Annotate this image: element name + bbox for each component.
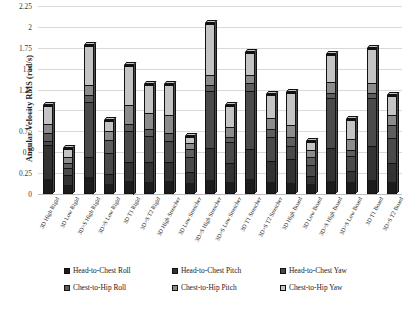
chart-legend: Head-to-Chest RollHead-to-Chest PitchHea… (64, 262, 388, 296)
bar-segment (85, 95, 93, 102)
bar-3d-body (124, 65, 136, 195)
plot-area (38, 6, 402, 194)
bar-column[interactable] (387, 95, 399, 194)
bar-stack (245, 52, 255, 194)
bar-segment (206, 148, 214, 179)
legend-swatch-icon (172, 285, 178, 291)
bar-3d-body (387, 95, 399, 194)
x-tick-label: 3D T1 Rigid (122, 196, 141, 225)
bar-segment (287, 93, 295, 125)
bar-segment (347, 171, 355, 182)
bar-column[interactable] (124, 65, 136, 195)
bar-stack (185, 136, 195, 194)
bar-column[interactable] (104, 120, 116, 194)
bar-segment (105, 153, 113, 173)
x-axis-tick-labels: 3D High Rigid3D Low Rigid3D>S High Rigid… (38, 196, 402, 258)
bar-stack (346, 119, 356, 194)
bar-segment (165, 141, 173, 162)
bar-3d-body (225, 105, 237, 194)
bar-3d-body (306, 141, 318, 194)
bar-segment (145, 85, 153, 113)
bar-top-face (367, 45, 380, 48)
bar-column[interactable] (205, 23, 217, 194)
bar-segment (368, 146, 376, 180)
bar-column[interactable] (164, 84, 176, 194)
bar-segment (287, 159, 295, 184)
y-tick-label: 0.25 (19, 169, 32, 178)
bar-segment (85, 46, 93, 85)
bar-segment (327, 98, 335, 147)
y-tick-label: 1.25 (19, 85, 32, 94)
legend-label: Head-to-Chest Yaw (289, 266, 347, 275)
bar-stack (367, 48, 377, 194)
bar-segment (44, 124, 52, 132)
bar-segment (307, 165, 315, 176)
legend-item[interactable]: Chest-to-Hip Roll (64, 283, 172, 292)
bar-segment (388, 138, 396, 163)
legend-swatch-icon (64, 285, 70, 291)
bar-column[interactable] (84, 45, 96, 194)
legend-label: Chest-to-Hip Yaw (289, 283, 342, 292)
legend-item[interactable]: Head-to-Chest Pitch (172, 266, 280, 275)
legend-swatch-icon (172, 268, 178, 274)
legend-item[interactable]: Head-to-Chest Yaw (280, 266, 388, 275)
bar-segment (64, 149, 72, 157)
bar-top-face (387, 92, 400, 95)
y-tick-label: 0 (28, 190, 32, 199)
bar-column[interactable] (63, 148, 75, 194)
bar-segment (165, 133, 173, 141)
bar-segment (388, 96, 396, 116)
bar-segment (105, 121, 113, 132)
bar-segment (125, 162, 133, 181)
legend-item[interactable]: Chest-to-Hip Yaw (280, 283, 388, 292)
bar-segment (368, 98, 376, 146)
bar-top-face (205, 20, 218, 23)
bar-column[interactable] (367, 48, 379, 194)
bar-column[interactable] (225, 105, 237, 194)
bar-segment (226, 106, 234, 127)
bar-series-group (38, 6, 402, 194)
bar-3d-body (84, 45, 96, 194)
legend-item[interactable]: Chest-to-Hip Pitch (172, 283, 280, 292)
bar-segment (267, 161, 275, 182)
bar-column[interactable] (43, 105, 55, 194)
bar-segment (64, 175, 72, 185)
bar-segment (64, 185, 72, 193)
bar-segment (246, 53, 254, 75)
x-tick-label: 3D High Rigid (39, 196, 61, 230)
bar-segment (307, 142, 315, 150)
bar-segment (287, 146, 295, 159)
bar-column[interactable] (185, 136, 197, 194)
bar-stack (326, 54, 336, 194)
bar-segment (307, 176, 315, 184)
bar-segment (85, 177, 93, 193)
bar-segment (267, 95, 275, 118)
bar-column[interactable] (306, 141, 318, 194)
angular-velocity-rms-chart: Angular Velocity RMS (rad/s) 00.250.50.7… (0, 0, 406, 311)
bar-column[interactable] (245, 52, 257, 194)
legend-item[interactable]: Head-to-Chest Roll (64, 266, 172, 275)
bar-segment (226, 182, 234, 193)
legend-swatch-icon (280, 268, 286, 274)
bar-segment (246, 91, 254, 149)
bar-segment (186, 183, 194, 193)
bar-column[interactable] (266, 94, 278, 194)
bar-top-face (104, 117, 117, 120)
legend-swatch-icon (64, 268, 70, 274)
bar-stack (266, 94, 276, 194)
bar-segment (347, 182, 355, 193)
bar-segment (267, 137, 275, 162)
bar-3d-body (346, 119, 358, 194)
bar-column[interactable] (286, 92, 298, 194)
x-tick-label: 3D T1 Board (364, 196, 384, 226)
bar-column[interactable] (326, 54, 338, 194)
x-tick-label: 3D>S Low Board (339, 196, 364, 236)
bar-stack (124, 65, 134, 195)
bar-3d-body (185, 136, 197, 194)
bar-column[interactable] (346, 119, 358, 194)
bar-segment (206, 75, 214, 85)
bar-segment (165, 181, 173, 193)
bar-stack (43, 105, 53, 194)
bar-column[interactable] (144, 84, 156, 194)
bar-segment (44, 133, 52, 141)
